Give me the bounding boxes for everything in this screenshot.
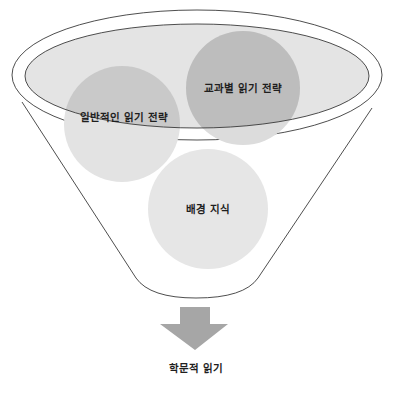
label-general-strategies: 일반적인 읽기 전략 [80,111,167,123]
down-arrow-icon [160,307,228,350]
label-background-knowledge: 배경 지식 [186,203,230,215]
label-subject-strategies: 교과별 읽기 전략 [204,82,281,94]
label-academic-reading: 학문적 읽기 [169,362,223,374]
funnel-diagram: 일반적인 읽기 전략 교과별 읽기 전략 배경 지식 학문적 읽기 [0,0,393,404]
